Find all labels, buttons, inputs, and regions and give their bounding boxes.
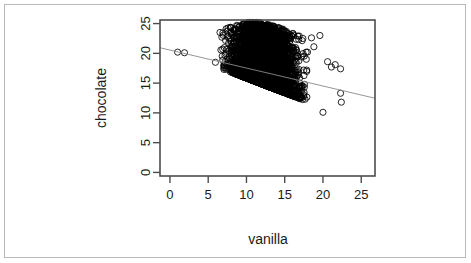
y-tick-label: 15 (139, 76, 154, 90)
y-tick-label: 10 (139, 106, 154, 120)
x-axis-tick-labels: 0510152025 (166, 187, 368, 202)
y-axis-tick-labels: 0510152025 (139, 16, 154, 176)
x-tick-label: 20 (316, 187, 330, 202)
y-axis-ticks (153, 24, 160, 173)
y-tick-label: 0 (139, 169, 154, 176)
x-axis-title: vanilla (248, 231, 288, 247)
y-axis-title: chocolate (93, 68, 109, 128)
x-axis-ticks (170, 176, 361, 183)
scatter-plot-figure: 0510152025 0510152025 vanilla chocolate (0, 0, 471, 263)
y-tick-label: 20 (139, 46, 154, 60)
x-tick-label: 5 (205, 187, 212, 202)
x-tick-label: 15 (277, 187, 291, 202)
y-tick-label: 25 (139, 16, 154, 30)
y-tick-label: 5 (139, 139, 154, 146)
x-tick-label: 0 (166, 187, 173, 202)
figure-page: 0510152025 0510152025 vanilla chocolate (0, 0, 471, 263)
x-tick-label: 25 (354, 187, 368, 202)
x-tick-label: 10 (239, 187, 253, 202)
